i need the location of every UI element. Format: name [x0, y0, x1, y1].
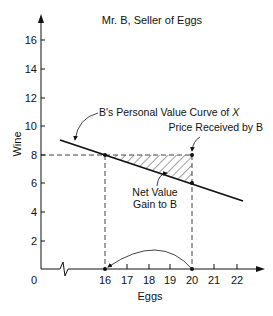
svg-text:6: 6 — [31, 177, 37, 189]
svg-text:17: 17 — [121, 274, 133, 286]
svg-text:19: 19 — [164, 274, 176, 286]
exchange-arc-arrow — [108, 250, 192, 269]
svg-text:20: 20 — [186, 274, 198, 286]
svg-text:16: 16 — [99, 274, 111, 286]
gain-label-line2: Gain to B — [133, 198, 177, 210]
chart-title: Mr. B, Seller of Eggs — [102, 14, 203, 26]
svg-text:21: 21 — [208, 274, 220, 286]
y-tick-labels: 2 4 6 8 10 12 14 16 — [25, 34, 37, 247]
y-ticks — [41, 40, 45, 241]
svg-text:18: 18 — [143, 274, 155, 286]
svg-text:16: 16 — [25, 34, 37, 46]
svg-text:12: 12 — [25, 92, 37, 104]
x-axis-label: Eggs — [137, 290, 163, 302]
svg-text:22: 22 — [231, 274, 243, 286]
curve-label-arrow — [75, 113, 98, 140]
price-label: Price Received by B — [168, 121, 263, 133]
svg-text:14: 14 — [25, 63, 37, 75]
curve-label: B's Personal Value Curve of X — [99, 106, 240, 118]
x-axis-arrow — [256, 266, 265, 272]
svg-text:10: 10 — [25, 120, 37, 132]
x-tick-labels: 16 17 18 19 20 21 22 — [99, 274, 243, 286]
svg-text:2: 2 — [31, 235, 37, 247]
x-ticks — [127, 264, 237, 269]
gain-label-line1: Net Value — [132, 186, 177, 198]
price-label-arrow — [192, 137, 200, 151]
y-axis-label: Wine — [11, 131, 23, 156]
origin-label: 0 — [31, 274, 37, 286]
svg-text:8: 8 — [31, 149, 37, 161]
svg-text:4: 4 — [31, 206, 37, 218]
y-axis-arrow — [38, 14, 44, 23]
chart: Mr. B, Seller of Eggs 2 4 6 8 10 12 14 1… — [0, 0, 273, 316]
